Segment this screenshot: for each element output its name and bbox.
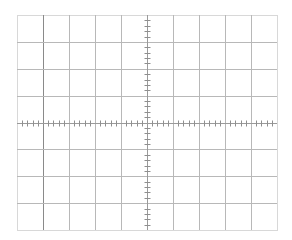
oscilloscope-graticule: [0, 0, 292, 240]
